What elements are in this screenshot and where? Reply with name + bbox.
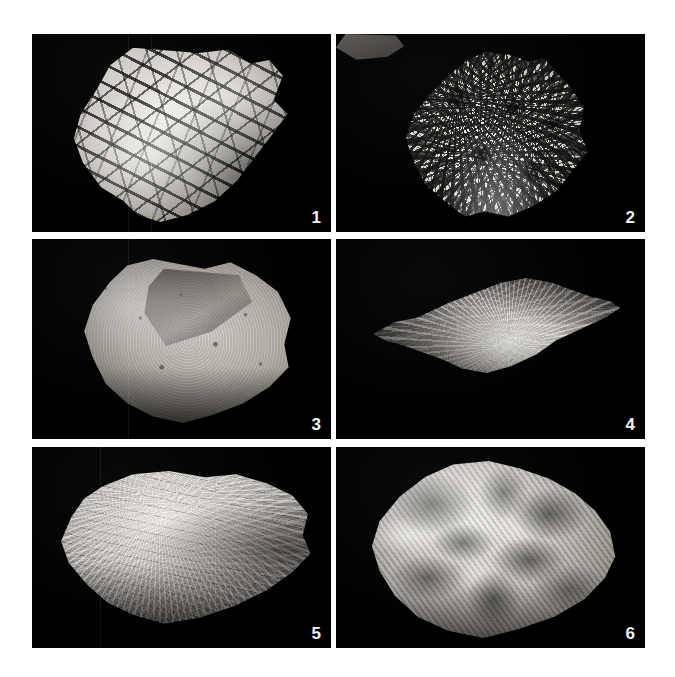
specimen-photo-1 <box>74 48 301 222</box>
specimen-shading-1 <box>74 48 301 222</box>
specimen-photo-3 <box>80 259 295 423</box>
specimen-shading-3 <box>80 259 295 423</box>
photographic-plate: 1 2 3 4 <box>0 0 675 677</box>
scan-artifact-line <box>128 239 129 439</box>
plate-panel-5[interactable]: 5 <box>32 447 331 648</box>
plate-panel-2[interactable]: 2 <box>336 34 645 232</box>
specimen-shading-2 <box>398 52 596 218</box>
specimen-dark-cap-2 <box>336 34 404 60</box>
specimen-photo-4 <box>373 271 620 387</box>
specimen-shading-4 <box>373 271 620 387</box>
specimen-shading-5 <box>56 471 313 624</box>
scan-artifact-line <box>151 34 152 232</box>
scan-artifact-line <box>128 34 129 232</box>
panel-number-label: 6 <box>626 625 635 642</box>
specimen-photo-2 <box>398 52 596 218</box>
scan-artifact-line <box>100 447 101 648</box>
panel-number-label: 2 <box>626 209 635 226</box>
panel-number-label: 1 <box>312 209 321 226</box>
plate-panel-1[interactable]: 1 <box>32 34 331 232</box>
panel-number-label: 4 <box>626 416 635 433</box>
specimen-photo-6 <box>367 461 620 638</box>
panel-number-label: 3 <box>312 416 321 433</box>
plate-panel-4[interactable]: 4 <box>336 239 645 439</box>
plate-panel-6[interactable]: 6 <box>336 447 645 648</box>
specimen-shading-6 <box>367 461 620 638</box>
specimen-photo-5 <box>56 471 313 624</box>
panel-number-label: 5 <box>312 625 321 642</box>
plate-panel-3[interactable]: 3 <box>32 239 331 439</box>
